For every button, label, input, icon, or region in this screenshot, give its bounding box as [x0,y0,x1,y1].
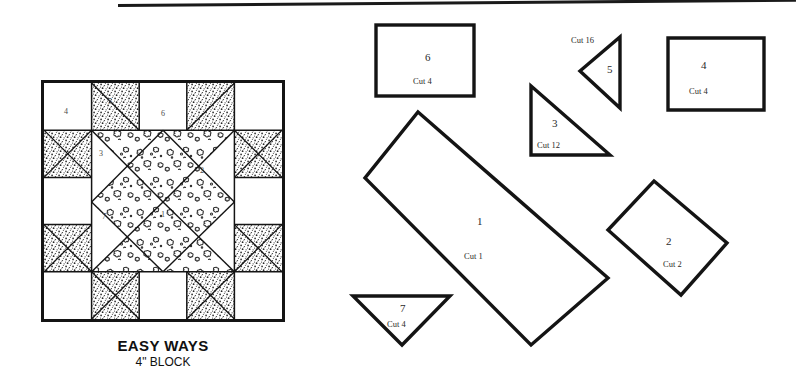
piece-1-cut: Cut 1 [464,251,483,261]
piece-5-cut: Cut 16 [571,35,594,45]
piece-4-shape [668,38,764,110]
piece-6-number: 6 [425,51,431,63]
piece-6-cut: Cut 4 [413,76,432,86]
piece-2-cut: Cut 2 [663,259,682,269]
piece-4-number: 4 [701,59,707,71]
piece-5-shape [580,37,620,108]
pattern-sheet: 4 5 6 3 2 7 1 EASY WAYS 4" BLOCK [0,0,796,375]
piece-3-number: 3 [552,117,558,129]
piece-4-cut: Cut 4 [689,86,708,96]
piece-1-number: 1 [477,215,483,227]
pattern-piece-templates: 6 Cut 4 5 Cut 16 4 Cut 4 3 Cut 12 1 Cut … [0,0,796,375]
piece-7-cut: Cut 4 [387,319,406,329]
piece-7-number: 7 [400,302,406,314]
piece-2-number: 2 [666,235,672,247]
piece-3-cut: Cut 12 [537,140,560,150]
piece-5-number: 5 [607,63,613,75]
